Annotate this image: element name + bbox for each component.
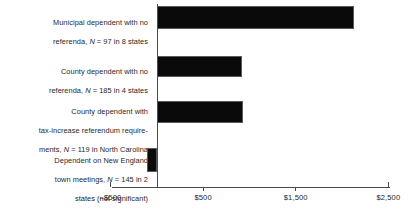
zero-axis-line (157, 4, 158, 188)
axis-tick (295, 187, 296, 192)
bar-2 (157, 101, 244, 123)
plot-area: –$500 $500 $1,500 $2,500 (0, 0, 411, 223)
bar-1 (157, 56, 243, 78)
axis-tick (110, 182, 111, 187)
horizontal-bar-chart: Municipal dependent with no referenda, N… (0, 0, 411, 223)
bar-0 (157, 6, 354, 30)
axis-tick (203, 187, 204, 192)
bar-3 (147, 148, 157, 172)
axis-tick-label-1500: $1,500 (284, 193, 308, 202)
axis-tick (388, 182, 389, 187)
axis-tick-label-2500: $2,500 (376, 193, 400, 202)
axis-tick-label-500: $500 (194, 193, 211, 202)
value-axis-line (112, 187, 390, 188)
axis-tick-label-neg500: –$500 (100, 193, 122, 202)
